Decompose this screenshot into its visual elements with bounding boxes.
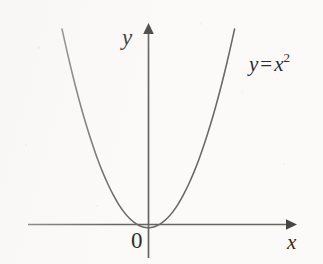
curve-equation-label: y=x2 — [249, 52, 290, 75]
x-axis-arrowhead — [286, 219, 297, 230]
parabola-figure: y x 0 y=x2 — [0, 0, 323, 264]
plot-canvas — [0, 0, 323, 264]
x-axis-label: x — [287, 232, 296, 253]
equation-base: x — [274, 52, 283, 76]
y-axis-label: y — [122, 26, 132, 49]
origin-label: 0 — [131, 229, 143, 252]
equation-exponent: 2 — [284, 50, 291, 65]
y-axis-arrowhead — [143, 23, 154, 34]
equation-variable: y — [249, 52, 258, 76]
equation-equals-sign: = — [258, 52, 274, 76]
